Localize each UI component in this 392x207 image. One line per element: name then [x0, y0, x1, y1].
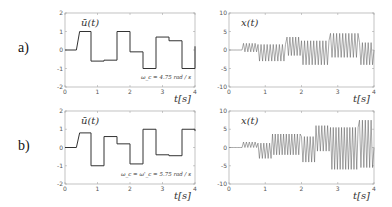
x-axis-label: t[s]: [353, 190, 370, 201]
frequency-annotation: ω_c = 4.75 rad / s: [141, 74, 191, 81]
oscillation-line: [229, 120, 374, 169]
y-tick-label: 2: [59, 9, 63, 16]
y-tick-label: -1: [57, 162, 63, 169]
x-tick-label: 1: [96, 185, 100, 192]
series-label: ū(t): [81, 17, 99, 28]
x-tick-label: 1: [263, 185, 267, 192]
plot-a-left: 01234210-1-2ū(t)ω_c = 4.75 rad / st[s]: [57, 9, 197, 104]
x-tick-label: 2: [128, 88, 132, 95]
plot-a-right: 012341050-5-10x(t)t[s]: [217, 9, 376, 104]
y-tick-label: 1: [59, 125, 63, 132]
y-tick-label: -5: [221, 65, 227, 72]
series-label: x(t): [241, 17, 259, 28]
y-tick-label: -5: [221, 162, 227, 169]
x-tick-label: 1: [96, 88, 100, 95]
y-tick-label: 10: [219, 107, 227, 114]
signal-line: [65, 32, 195, 69]
x-tick-label: 2: [128, 185, 132, 192]
y-tick-label: -2: [57, 83, 63, 90]
x-axis-label: t[s]: [174, 93, 191, 104]
y-tick-label: 0: [59, 144, 63, 151]
y-tick-label: 0: [223, 46, 227, 53]
y-tick-label: -10: [217, 180, 227, 187]
y-tick-label: -10: [217, 83, 227, 90]
y-tick-label: -2: [57, 180, 63, 187]
x-tick-label: 1: [263, 88, 267, 95]
plot-b-left: 01234210-1-2ū(t)ω_c = ω'_c = 5.75 rad / …: [57, 107, 197, 201]
y-tick-label: -1: [57, 65, 63, 72]
x-tick-label: 3: [336, 88, 340, 95]
y-tick-label: 0: [223, 144, 227, 151]
x-tick-label: 0: [63, 88, 67, 95]
y-tick-label: 5: [223, 28, 227, 35]
x-axis-label: t[s]: [174, 190, 191, 201]
y-tick-label: 10: [219, 9, 227, 16]
x-tick-label: 3: [161, 88, 165, 95]
oscillation-line: [229, 33, 374, 64]
signal-line: [65, 129, 195, 166]
plot-b-right: 012341050-5-10x(t)t[s]: [217, 107, 376, 201]
frequency-annotation: ω_c = ω'_c = 5.75 rad / s: [121, 171, 191, 178]
x-tick-label: 0: [227, 185, 231, 192]
y-tick-label: 2: [59, 107, 63, 114]
x-tick-label: 3: [161, 185, 165, 192]
x-tick-label: 2: [300, 88, 304, 95]
series-label: x(t): [241, 115, 259, 126]
x-tick-label: 4: [193, 88, 197, 95]
x-tick-label: 2: [300, 185, 304, 192]
series-label: ū(t): [81, 115, 99, 126]
x-tick-label: 0: [63, 185, 67, 192]
x-tick-label: 4: [372, 185, 376, 192]
x-tick-label: 4: [372, 88, 376, 95]
y-tick-label: 0: [59, 46, 63, 53]
figure-canvas: 01234210-1-2ū(t)ω_c = 4.75 rad / st[s]01…: [0, 0, 392, 207]
x-tick-label: 0: [227, 88, 231, 95]
x-tick-label: 3: [336, 185, 340, 192]
x-axis-label: t[s]: [353, 93, 370, 104]
y-tick-label: 1: [59, 28, 63, 35]
y-tick-label: 5: [223, 125, 227, 132]
x-tick-label: 4: [193, 185, 197, 192]
